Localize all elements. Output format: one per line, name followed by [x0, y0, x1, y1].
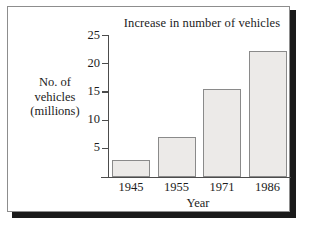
x-tick-label-1986: 1986: [246, 180, 290, 195]
y-tick-15: [102, 91, 109, 92]
y-tick-20: [102, 63, 109, 64]
bar-1945: [112, 160, 150, 177]
bar-1971: [203, 89, 241, 176]
y-tick-5: [102, 148, 109, 149]
y-tick-label-15: 15: [74, 84, 100, 99]
chart-title: Increase in number of vehicles: [112, 16, 292, 31]
y-tick-label-5: 5: [74, 140, 100, 155]
y-tick-label-25: 25: [74, 28, 100, 43]
bar-1955: [158, 137, 196, 176]
y-tick-label-10: 10: [74, 112, 100, 127]
y-tick-label-20: 20: [74, 56, 100, 71]
bar-1986: [249, 51, 287, 177]
y-tick-25: [102, 35, 109, 36]
x-axis-label: Year: [108, 196, 288, 211]
x-tick-label-1955: 1955: [155, 180, 199, 195]
card-shadow-right: [290, 10, 296, 218]
y-tick-10: [102, 120, 109, 121]
card-shadow-bottom: [12, 212, 296, 218]
x-tick-label-1971: 1971: [200, 180, 244, 195]
x-tick-label-1945: 1945: [109, 180, 153, 195]
x-axis-line: [101, 177, 291, 178]
y-axis-line: [108, 35, 109, 178]
figure-root: Increase in number of vehicles No. of ve…: [0, 0, 310, 226]
chart-card: Increase in number of vehicles No. of ve…: [7, 6, 290, 212]
